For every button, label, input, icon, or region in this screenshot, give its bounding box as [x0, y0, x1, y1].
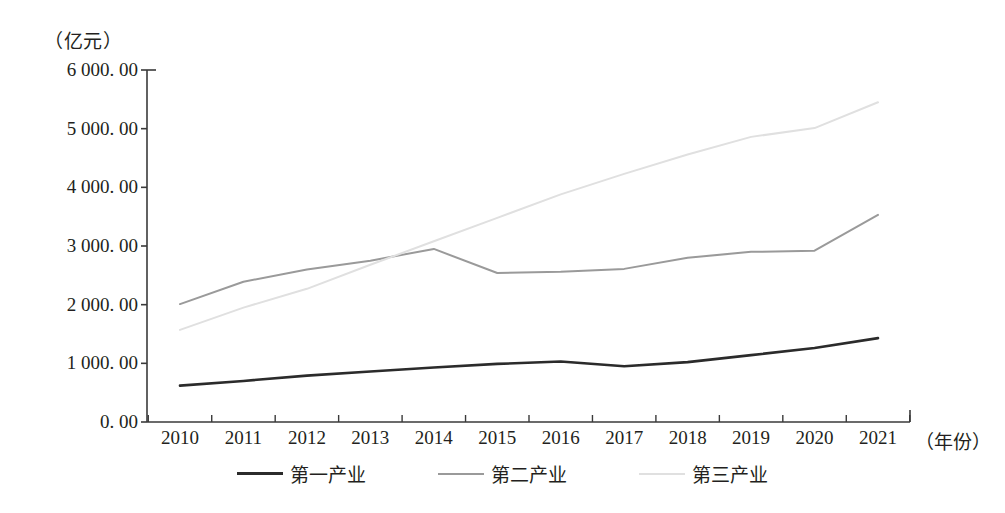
y-axis-tick-label: 0. 00: [30, 411, 138, 433]
series-line-3: [180, 102, 878, 330]
y-axis-tick: 5 000. 00: [30, 129, 138, 151]
y-axis-tick-label: 6 000. 00: [30, 59, 138, 81]
y-axis-tick-label: 5 000. 00: [30, 118, 138, 140]
legend-label: 第二产业: [491, 460, 567, 487]
x-axis-tick-label: 2011: [225, 427, 262, 449]
y-axis-tick: 0. 00: [30, 422, 138, 444]
x-axis-tick-label: 2018: [669, 427, 707, 449]
y-axis-tick-label: 4 000. 00: [30, 176, 138, 198]
chart-series: [180, 102, 878, 385]
y-axis-tick: 2 000. 00: [30, 305, 138, 327]
y-axis-tick: 3 000. 00: [30, 246, 138, 268]
x-axis-tick-label: 2019: [732, 427, 770, 449]
legend-label: 第一产业: [290, 460, 366, 487]
series-line-2: [180, 215, 878, 304]
y-axis-tick-label: 1 000. 00: [30, 352, 138, 374]
y-axis-tick: 4 000. 00: [30, 187, 138, 209]
series-line-1: [180, 338, 878, 386]
y-axis-tick-label: 3 000. 00: [30, 235, 138, 257]
chart-root: （亿元） 0. 001 000. 002 000. 003 000. 004 0…: [0, 0, 1005, 513]
x-axis-tick-label: 2021: [859, 427, 897, 449]
x-axis-tick-label: 2016: [542, 427, 580, 449]
legend-line-swatch: [639, 473, 685, 475]
x-axis-tick-label: 2014: [415, 427, 453, 449]
legend-line-swatch: [438, 473, 484, 475]
x-axis-tick-label: 2017: [605, 427, 643, 449]
x-axis-tick-label: 2015: [478, 427, 516, 449]
x-axis-title: （年份）: [915, 427, 991, 454]
legend-label: 第三产业: [692, 460, 768, 487]
x-axis-tick-label: 2012: [288, 427, 326, 449]
x-axis-tick-label: 2020: [796, 427, 834, 449]
chart-legend: 第一产业第二产业第三产业: [0, 460, 1005, 487]
y-axis-tick-label: 2 000. 00: [30, 294, 138, 316]
x-axis-tick-label: 2013: [351, 427, 389, 449]
legend-line-swatch: [237, 472, 283, 475]
legend-item-2[interactable]: 第二产业: [438, 460, 567, 487]
legend-item-1[interactable]: 第一产业: [237, 460, 366, 487]
legend-item-3[interactable]: 第三产业: [639, 460, 768, 487]
y-axis-tick: 6 000. 00: [30, 70, 138, 92]
y-axis-tick: 1 000. 00: [30, 363, 138, 385]
chart-axes: [141, 70, 910, 422]
x-axis-tick-label: 2010: [161, 427, 199, 449]
